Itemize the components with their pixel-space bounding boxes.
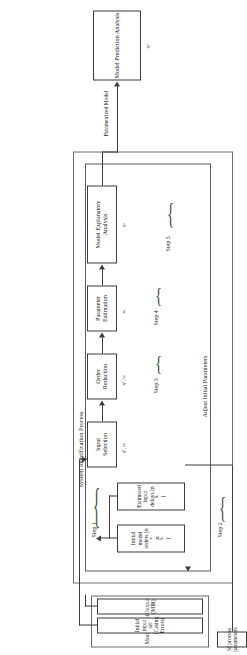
order-reduction-tag: sf , sa [121, 374, 126, 385]
si-params-riser [185, 464, 190, 465]
model-explanatory-line2: Analysis [102, 200, 109, 248]
input-selection-line2: Selection [102, 432, 109, 455]
estimated-input-delays-line1: Estimated input [136, 484, 149, 508]
step-4-label: Step 4 [153, 310, 159, 325]
step-4-brace: { [155, 285, 162, 307]
edge-parameterized-model-label: Parametrized Model [103, 87, 109, 139]
output-feed-run [85, 594, 86, 606]
order-reduction-line2: Reduction [102, 363, 109, 388]
edge-parameterized-model-arrow [114, 81, 120, 86]
parameter-to-explanatory-line [102, 269, 103, 285]
step1-b-riser [109, 495, 117, 496]
system-identification-process-title: System Identification Process [77, 411, 84, 487]
parameter-to-explanatory-arrow [99, 264, 105, 269]
diagram-stage: Model Prediction Analysis sp Parametrize… [65, 0, 190, 655]
explanatory-out-stub [102, 152, 103, 185]
box-input-selection: Input Selection [87, 421, 117, 467]
order-to-parameter-line [102, 337, 103, 353]
input-to-order-line [102, 405, 103, 421]
model-prediction-analysis-line1: Model Prediction Analysis [114, 12, 121, 78]
step1-merge-stem [101, 537, 110, 538]
edge-parameterized-model-line [117, 86, 118, 152]
box-output-mir: Output (MIR) [97, 598, 190, 614]
step-5-label: Step 5 [165, 236, 171, 251]
box-parameter-estimation: Parameter Estimation [87, 285, 117, 331]
step-3-label: Step 3 [153, 378, 159, 393]
box-order-reduction: Order Reduction [87, 353, 117, 399]
model-explanatory-tag: sp [121, 223, 126, 227]
parameter-estimation-line2: Estimation [102, 295, 109, 322]
step-5-brace: { [167, 198, 174, 228]
input-set-feed-riser [79, 624, 98, 625]
output-feed-riser [85, 605, 98, 606]
order-to-parameter-arrow [99, 332, 105, 337]
box-initial-model-orders: Initial model orders (na,nb) [117, 524, 185, 552]
initial-input-set-line1: Initial input set [134, 616, 153, 633]
output-mir-line2: (MIR) [150, 598, 156, 614]
input-set-feed-run [79, 459, 80, 625]
box-initial-input-set: Initial input set (Casing Errors) [97, 617, 190, 633]
input-set-feed-arrow [82, 456, 87, 462]
step1-to-input-selection-arrow [96, 535, 101, 541]
step-1-brace: { [93, 483, 100, 531]
diagram-canvas: Model Prediction Analysis sp Parametrize… [65, 0, 190, 655]
box-model-prediction-analysis: Model Prediction Analysis [93, 10, 141, 80]
parameter-estimation-tag: sa [121, 309, 126, 313]
step-3-brace: { [155, 353, 162, 375]
initial-model-orders-line1: Initial model [130, 526, 143, 550]
step1-merge-bar [109, 495, 110, 538]
box-model-explanatory-analysis: Model Explanatory Analysis [87, 185, 117, 263]
initial-input-set-line2: (Casing Errors) [153, 616, 166, 633]
input-to-order-arrow [99, 400, 105, 405]
adjust-initial-parameters-arrow [185, 566, 190, 571]
model-prediction-analysis-tag: sp [145, 44, 150, 48]
step1-a-riser [109, 537, 117, 538]
input-selection-tag: sf , sa [121, 442, 126, 453]
explanatory-out-turn [102, 151, 118, 152]
box-estimated-input-delays: Estimated input delays (nk) [117, 482, 185, 510]
